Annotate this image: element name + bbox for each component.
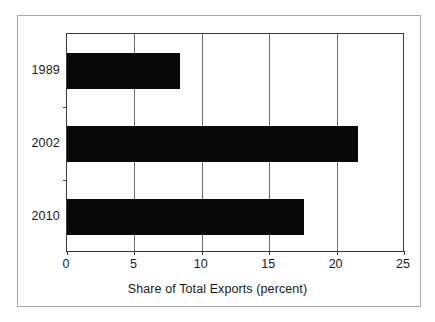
plot-area — [66, 33, 404, 252]
x-axis-tick-label: 0 — [46, 258, 86, 271]
x-axis-tick-mark — [269, 251, 270, 255]
x-axis-tick-label: 5 — [113, 258, 153, 271]
y-axis-tick-mark — [63, 107, 67, 108]
bar — [67, 199, 304, 235]
x-axis-tick-label: 10 — [181, 258, 221, 271]
y-axis-labels: 198920022010 — [8, 33, 60, 252]
x-axis-tick-mark — [337, 251, 338, 255]
chart-figure: 198920022010 Share of Total Exports (per… — [0, 0, 435, 322]
x-axis-tick-label: 20 — [316, 258, 356, 271]
y-axis-tick-label: 2010 — [14, 210, 60, 223]
x-axis-tick-mark — [134, 251, 135, 255]
y-axis-tick-label: 1989 — [14, 64, 60, 77]
bar — [67, 53, 180, 89]
x-axis-tick-label: 25 — [383, 258, 423, 271]
x-axis-tick-mark — [67, 251, 68, 255]
x-axis-tick-mark — [202, 251, 203, 255]
bar — [67, 126, 358, 162]
y-axis-tick-mark — [63, 180, 67, 181]
x-axis-title: Share of Total Exports (percent) — [0, 282, 435, 296]
x-axis-tick-mark — [404, 251, 405, 255]
y-axis-tick-label: 2002 — [14, 137, 60, 150]
x-axis-tick-label: 15 — [248, 258, 288, 271]
